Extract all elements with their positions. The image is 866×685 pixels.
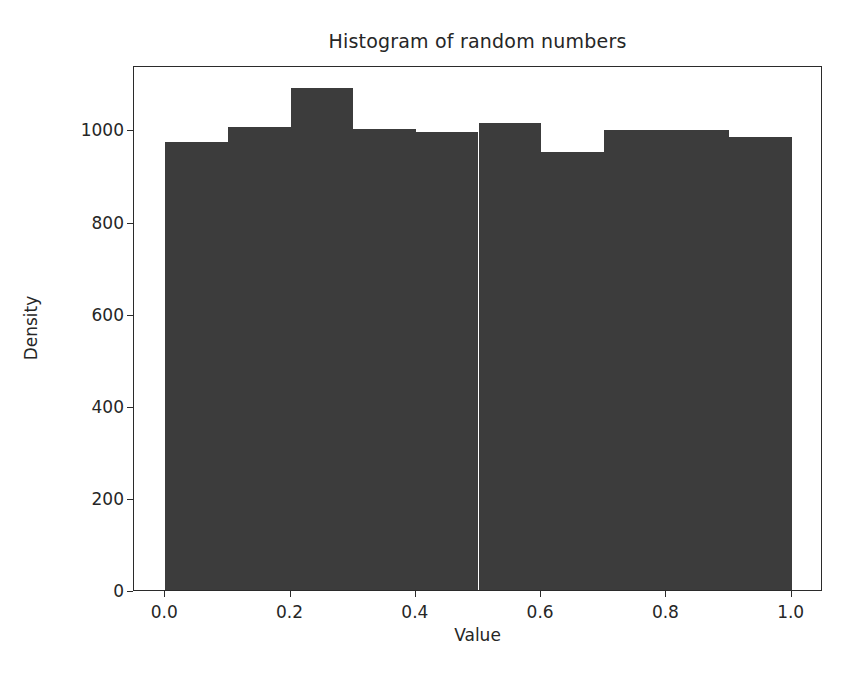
histogram-bar bbox=[666, 130, 729, 590]
x-tick-label: 0.8 bbox=[652, 602, 679, 622]
x-axis-label: Value bbox=[133, 625, 822, 645]
histogram-bar bbox=[291, 88, 354, 590]
x-tick-label: 0.2 bbox=[276, 602, 303, 622]
histogram-bar bbox=[729, 137, 792, 590]
y-tick-label: 0 bbox=[113, 581, 124, 601]
histogram-bar bbox=[416, 132, 479, 590]
y-axis-label: Density bbox=[21, 296, 41, 361]
bars-container bbox=[134, 67, 821, 590]
y-tick-mark bbox=[127, 130, 133, 131]
x-tick-mark bbox=[415, 591, 416, 597]
histogram-bar bbox=[479, 123, 542, 590]
y-tick-mark bbox=[127, 407, 133, 408]
histogram-bar bbox=[228, 127, 291, 590]
plot-area bbox=[133, 66, 822, 591]
histogram-bar bbox=[353, 129, 416, 590]
x-tick-label: 0.6 bbox=[527, 602, 554, 622]
x-tick-mark bbox=[290, 591, 291, 597]
x-tick-label: 0.4 bbox=[401, 602, 428, 622]
histogram-bar bbox=[541, 152, 604, 590]
y-tick-label: 800 bbox=[92, 213, 124, 233]
y-tick-label: 1000 bbox=[81, 120, 124, 140]
x-tick-mark bbox=[540, 591, 541, 597]
x-tick-mark bbox=[164, 591, 165, 597]
y-tick-label: 200 bbox=[92, 489, 124, 509]
y-tick-label: 600 bbox=[92, 305, 124, 325]
histogram-figure: Histogram of random numbers Density 0200… bbox=[0, 0, 866, 685]
histogram-bar bbox=[165, 142, 228, 590]
x-tick-label: 0.0 bbox=[151, 602, 178, 622]
y-tick-mark bbox=[127, 223, 133, 224]
page-title: Histogram of random numbers bbox=[133, 30, 822, 52]
histogram-bar bbox=[604, 130, 667, 590]
x-tick-mark bbox=[665, 591, 666, 597]
x-tick-label: 1.0 bbox=[777, 602, 804, 622]
y-tick-mark bbox=[127, 499, 133, 500]
y-tick-label: 400 bbox=[92, 397, 124, 417]
x-tick-mark bbox=[791, 591, 792, 597]
y-tick-mark bbox=[127, 315, 133, 316]
